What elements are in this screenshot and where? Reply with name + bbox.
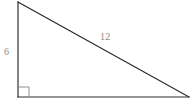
triangle-figure: 6 12 bbox=[0, 0, 192, 110]
triangle-diagram-svg bbox=[0, 0, 192, 110]
triangle-hypotenuse bbox=[18, 2, 189, 97]
right-angle-marker-icon bbox=[19, 87, 29, 97]
hypotenuse-label: 12 bbox=[100, 32, 111, 42]
vertical-leg-label: 6 bbox=[4, 47, 9, 57]
